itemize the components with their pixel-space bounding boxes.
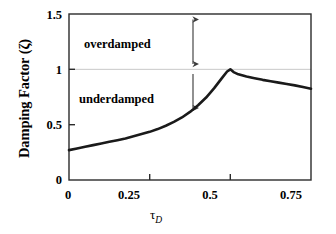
axis-ticks (69, 69, 230, 180)
plot-border (69, 14, 311, 180)
chart-plot-svg (0, 0, 336, 234)
figure-container: Damping Factor (ζ) τD 1.5 1 0.5 0 0 0.25… (0, 0, 336, 234)
damping-factor-curve (69, 69, 311, 150)
plot-frame (69, 14, 311, 180)
